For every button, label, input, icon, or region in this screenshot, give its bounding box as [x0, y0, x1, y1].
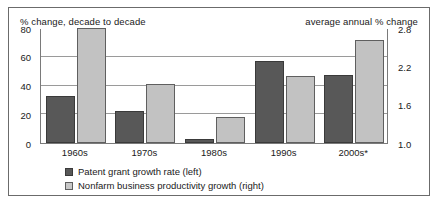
x-tick-label: 1970s: [110, 147, 180, 158]
left-axis-caption: % change, decade to decade: [20, 16, 146, 27]
x-tick-label: 1980s: [179, 147, 249, 158]
y-tick-left: 40: [20, 82, 31, 92]
y-axis-left: 020406080: [9, 29, 36, 144]
legend-swatch-light: [65, 182, 73, 190]
y-tick-left: 20: [20, 111, 31, 121]
legend-swatch-dark: [65, 168, 73, 176]
bar-patent-growth: [255, 61, 284, 143]
y-axis-right: 1.01.62.22.8: [392, 29, 426, 144]
bar-productivity-growth: [77, 28, 106, 143]
bar-patent-growth: [46, 96, 75, 143]
bar-productivity-growth: [355, 40, 384, 144]
y-tick-left: 80: [20, 25, 31, 35]
bar-productivity-growth: [286, 76, 315, 143]
y-tick-right: 2.8: [398, 25, 411, 35]
y-tick-right: 1.0: [398, 140, 411, 150]
x-tick-label: 2000s*: [318, 147, 388, 158]
legend-item: Nonfarm business productivity growth (ri…: [65, 179, 264, 192]
bar-patent-growth: [185, 139, 214, 143]
plot-area: [40, 29, 388, 144]
bar-patent-growth: [324, 75, 353, 143]
y-tick-right: 2.2: [398, 63, 411, 73]
y-tick-right: 1.6: [398, 101, 411, 111]
bar-productivity-growth: [216, 117, 245, 143]
legend-item: Patent grant growth rate (left): [65, 165, 264, 178]
x-tick-label: 1960s: [40, 147, 110, 158]
chart-legend: Patent grant growth rate (left)Nonfarm b…: [65, 165, 264, 193]
x-tick-label: 1990s: [249, 147, 319, 158]
bar-productivity-growth: [146, 84, 175, 143]
x-axis-labels: 1960s1970s1980s1990s2000s*: [40, 147, 388, 161]
legend-label: Nonfarm business productivity growth (ri…: [78, 180, 264, 191]
legend-label: Patent grant growth rate (left): [78, 166, 202, 177]
chart-figure: % change, decade to decade average annua…: [8, 7, 430, 196]
bar-patent-growth: [115, 111, 144, 143]
y-tick-left: 0: [26, 140, 31, 150]
y-tick-left: 60: [20, 53, 31, 63]
